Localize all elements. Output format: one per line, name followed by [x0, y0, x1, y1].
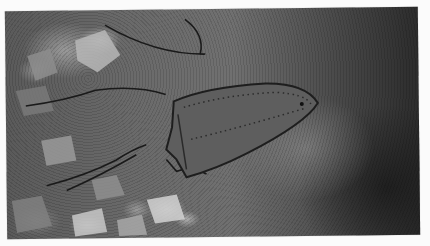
iron-soleplate [166, 83, 319, 178]
photograph [5, 7, 420, 239]
rocks [10, 29, 185, 237]
scene-overlay [5, 7, 420, 239]
